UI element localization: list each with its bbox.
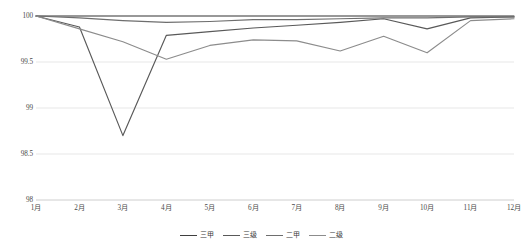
legend-label: 二级	[329, 231, 343, 240]
y-tick-label: 100	[3, 12, 33, 20]
x-tick-label: 2月	[59, 203, 99, 213]
x-tick-label: 12月	[494, 203, 522, 213]
legend-item-三甲[interactable]: 三甲	[180, 231, 214, 240]
legend-swatch-icon	[309, 235, 326, 236]
series-line-二甲	[36, 16, 514, 22]
x-axis-labels: 1月2月3月4月5月6月7月8月9月10月11月12月	[36, 203, 514, 217]
series-line-二级	[36, 16, 514, 59]
y-axis-labels: 9898.59999.5100	[0, 16, 33, 200]
x-tick-label: 4月	[146, 203, 186, 213]
legend-label: 二甲	[286, 231, 300, 240]
x-tick-label: 7月	[277, 203, 317, 213]
y-tick-label: 99	[3, 104, 33, 112]
chart-legend: 三甲三级二甲二级	[0, 228, 522, 242]
plot-area	[36, 16, 514, 200]
x-tick-label: 6月	[233, 203, 273, 213]
legend-swatch-icon	[180, 235, 197, 236]
legend-item-三级[interactable]: 三级	[223, 231, 257, 240]
x-tick-label: 10月	[407, 203, 447, 213]
x-tick-label: 8月	[320, 203, 360, 213]
legend-label: 三级	[243, 231, 257, 240]
x-tick-label: 1月	[16, 203, 56, 213]
legend-item-二级[interactable]: 二级	[309, 231, 343, 240]
x-tick-label: 3月	[103, 203, 143, 213]
legend-swatch-icon	[266, 235, 283, 236]
legend-label: 三甲	[200, 231, 214, 240]
line-chart: 9898.59999.5100 1月2月3月4月5月6月7月8月9月10月11月…	[0, 0, 522, 251]
legend-swatch-icon	[223, 235, 240, 236]
y-tick-label: 98.5	[3, 150, 33, 158]
legend-item-二甲[interactable]: 二甲	[266, 231, 300, 240]
series-lines	[36, 16, 514, 200]
series-line-三级	[36, 16, 514, 136]
x-tick-label: 5月	[190, 203, 230, 213]
x-tick-label: 9月	[364, 203, 404, 213]
y-tick-label: 99.5	[3, 58, 33, 66]
x-tick-label: 11月	[451, 203, 491, 213]
